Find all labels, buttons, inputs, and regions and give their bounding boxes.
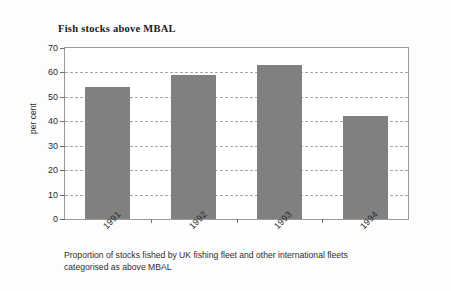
y-tick-mark (60, 97, 65, 98)
y-tick-mark (60, 72, 65, 73)
x-tick-mark (237, 219, 238, 223)
y-tick-mark (60, 146, 65, 147)
y-tick-mark (60, 48, 65, 49)
bar-1992 (171, 75, 216, 219)
x-tick-mark (322, 219, 323, 223)
chart-title: Fish stocks above MBAL (58, 23, 176, 34)
y-tick-label: 0 (53, 214, 58, 224)
bar-1991 (85, 87, 130, 219)
bar-1993 (257, 65, 302, 219)
chart-caption: Proportion of stocks fished by UK fishin… (64, 250, 409, 273)
x-tick-mark (151, 219, 152, 223)
bar-1994 (343, 116, 388, 219)
y-tick-mark (60, 170, 65, 171)
y-tick-label: 30 (48, 141, 58, 151)
y-axis-title: per cent (28, 103, 38, 134)
y-tick-label: 60 (48, 67, 58, 77)
figure-container: Fish stocks above MBAL per cent 01020304… (0, 0, 451, 291)
y-tick-label: 20 (48, 165, 58, 175)
y-tick-label: 70 (48, 43, 58, 53)
caption-line-2: categorised as above MBAL (64, 262, 409, 274)
y-tick-mark (60, 219, 65, 220)
y-tick-mark (60, 195, 65, 196)
y-tick-mark (60, 121, 65, 122)
gridline (65, 72, 408, 73)
plot-area: 010203040506070 (64, 47, 409, 220)
caption-line-1: Proportion of stocks fished by UK fishin… (64, 250, 409, 262)
y-tick-label: 40 (48, 116, 58, 126)
y-tick-label: 10 (48, 190, 58, 200)
y-tick-label: 50 (48, 92, 58, 102)
